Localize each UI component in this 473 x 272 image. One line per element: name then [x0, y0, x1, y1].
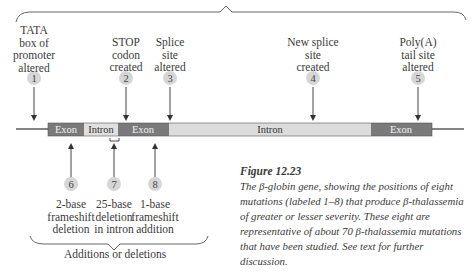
mutation-number-1: 1 [31, 73, 36, 84]
mutation-label-2: STOP codon created [101, 36, 151, 74]
mutation-label-8: 1-base frameshift addition [122, 198, 188, 236]
caption-text: The β-globin gene, showing the positions… [240, 180, 464, 267]
mutation-label-5: Poly(A) tail site altered [388, 36, 448, 74]
mutation-number-7: 7 [111, 179, 116, 190]
mutation-marker-8: 8 [148, 177, 162, 191]
mutation-number-4: 4 [310, 73, 316, 84]
figure-caption: Figure 12.23 The β-globin gene, showing … [240, 164, 470, 269]
mutation-label-1: TATA box of promoter altered [4, 24, 64, 74]
mutation-marker-6: 6 [64, 177, 78, 191]
caption-title: Figure 12.23 [240, 164, 470, 179]
deletion-bracket [110, 138, 119, 141]
mutation-number-5: 5 [415, 73, 420, 84]
mutation-label-4: New splice site created [278, 36, 348, 74]
mutation-number-6: 6 [68, 179, 73, 190]
mutation-label-3: Splice site altered [145, 36, 195, 74]
mutation-number-2: 2 [123, 73, 128, 84]
mutation-number-3: 3 [167, 73, 172, 84]
exon-3-label: Exon [390, 124, 413, 135]
additions-deletions-label: Additions or deletions [50, 248, 180, 260]
mutation-marker-7: 7 [107, 177, 121, 191]
intron-2-label: Intron [257, 124, 283, 135]
exon-2-label: Exon [132, 124, 155, 135]
mutation-number-8: 8 [152, 179, 157, 190]
top-brace [16, 6, 466, 22]
intron-1-label: Intron [88, 124, 114, 135]
exon-1-label: Exon [55, 124, 78, 135]
